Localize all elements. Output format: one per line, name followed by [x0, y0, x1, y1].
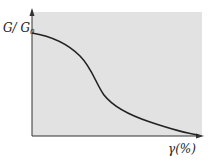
plot-area: [32, 12, 202, 136]
x-axis-label: γ(%): [168, 142, 196, 156]
chart: G/ G0 γ(%): [0, 0, 215, 162]
y-axis-label: G/ G0: [3, 21, 35, 36]
